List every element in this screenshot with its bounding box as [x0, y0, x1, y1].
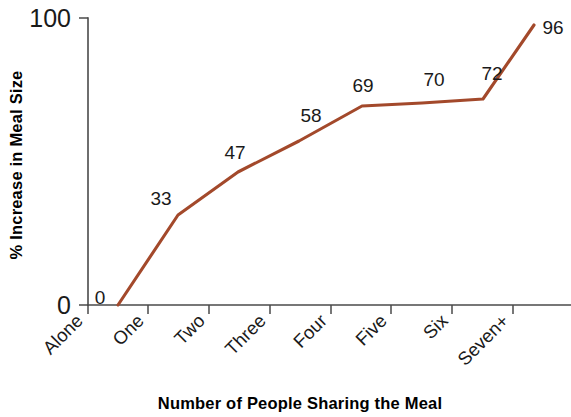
data-label-four: 69 — [352, 75, 373, 96]
data-label-five: 70 — [423, 69, 444, 90]
data-label-alone: 0 — [95, 287, 106, 308]
cat-label-sevenplus: Seven+ — [453, 310, 513, 370]
x-axis-ticks — [88, 305, 513, 314]
cat-label-five: Five — [351, 310, 391, 350]
cat-label-four: Four — [289, 310, 331, 352]
chart-canvas: 100 0 0 33 47 58 69 70 72 96 Alone One T… — [0, 0, 571, 417]
cat-label-two: Two — [170, 310, 209, 349]
data-label-one: 33 — [150, 188, 171, 209]
data-label-six: 72 — [481, 63, 502, 84]
data-label-three: 58 — [300, 105, 321, 126]
y-tick-label-100: 100 — [29, 4, 71, 32]
x-axis-category-labels: Alone One Two Three Four Five Six Seven+ — [39, 309, 513, 369]
cat-label-six: Six — [419, 309, 453, 343]
cat-label-one: One — [108, 310, 148, 350]
line-chart: 100 0 0 33 47 58 69 70 72 96 Alone One T… — [0, 0, 571, 417]
data-label-sevenplus: 96 — [542, 17, 563, 38]
data-series-line — [118, 25, 534, 305]
data-label-two: 47 — [224, 142, 245, 163]
y-axis-title: % Increase in Meal Size — [7, 71, 25, 260]
x-axis-title: Number of People Sharing the Meal — [158, 394, 442, 412]
data-point-labels: 0 33 47 58 69 70 72 96 — [95, 17, 564, 308]
cat-label-three: Three — [221, 310, 270, 359]
